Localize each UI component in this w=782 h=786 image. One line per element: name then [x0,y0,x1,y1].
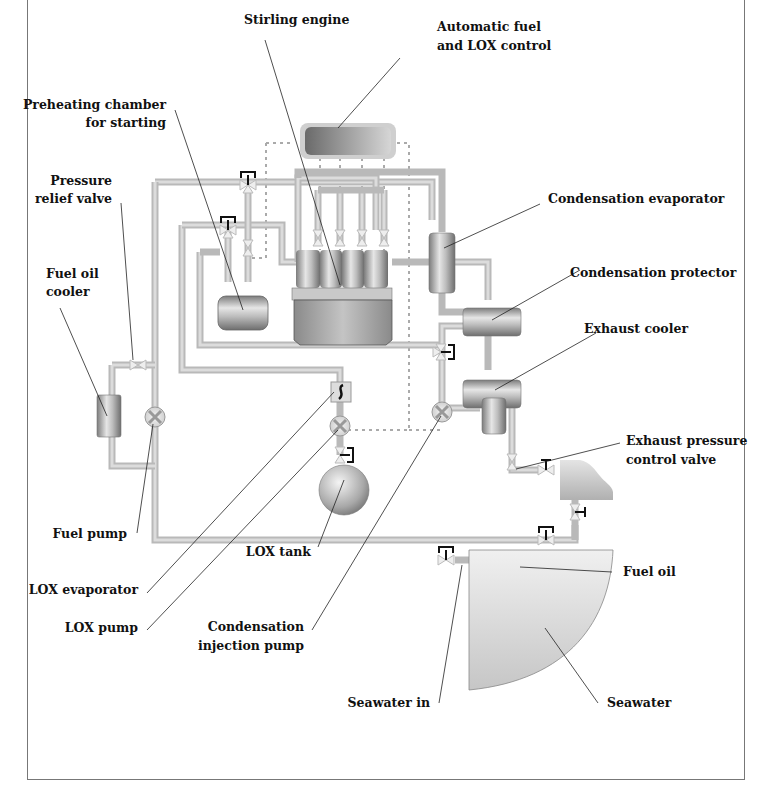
label-fuel-oil-cooler-1: Fuel oil [46,266,99,281]
lox-pump-icon [330,416,350,436]
stirling-system-diagram: Stirling engine Automatic fuel and LOX c… [0,0,782,786]
label-pressure-relief-1: Pressure [50,173,112,188]
exhaust-outlet-smoke [560,460,613,500]
label-auto-control-2: and LOX control [437,38,552,53]
label-exhaust-cooler: Exhaust cooler [584,321,688,336]
label-pressure-relief-2: relief valve [35,191,112,206]
label-auto-control-1: Automatic fuel [436,19,541,34]
label-exhaust-pcv-1: Exhaust pressure [626,433,747,448]
label-fuel-oil-cooler-2: cooler [46,284,90,299]
fuel-pump-icon [145,407,165,427]
label-fuel-oil: Fuel oil [623,564,676,579]
label-cond-injection-1: Condensation [208,619,304,634]
condensation-injection-pump-icon [432,402,452,422]
label-lox-tank: LOX tank [246,544,311,559]
automatic-control-unit [305,127,391,155]
stirling-engine [292,250,392,345]
label-lox-pump: LOX pump [65,620,139,635]
label-stirling-engine: Stirling engine [244,12,349,27]
preheating-chamber [218,296,268,330]
label-exhaust-pcv-2: control valve [626,452,716,467]
label-seawater-in: Seawater in [348,695,430,710]
condensation-evaporator [429,233,455,293]
label-seawater: Seawater [607,695,672,710]
label-preheating-1: Preheating chamber [23,97,166,112]
label-preheating-2: for starting [86,115,167,130]
condensation-protector [463,308,521,336]
label-cond-injection-2: injection pump [198,638,304,653]
label-condensation-evaporator: Condensation evaporator [548,191,725,206]
label-lox-evaporator: LOX evaporator [29,582,139,597]
label-fuel-pump: Fuel pump [52,526,127,541]
label-condensation-protector: Condensation protector [570,265,737,280]
lox-tank [319,465,369,515]
exhaust-cooler-outlet [482,398,506,434]
